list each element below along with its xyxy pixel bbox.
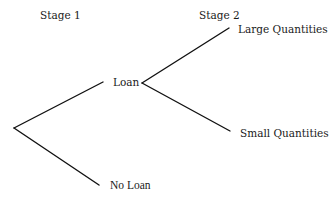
stage-2-label: Stage 2: [199, 10, 240, 21]
stage-1-label: Stage 1: [40, 10, 81, 21]
edge-loan-to-small-quantities: [142, 83, 230, 131]
node-large-quantities-label: Large Quantities: [238, 24, 328, 35]
node-small-quantities-label: Small Quantities: [240, 128, 329, 139]
edge-root-to-loan: [14, 82, 103, 128]
node-no-loan-label: No Loan: [110, 180, 151, 192]
node-loan-label: Loan: [113, 77, 139, 88]
edge-loan-to-large-quantities: [142, 28, 229, 83]
edge-root-to-no-loan: [14, 128, 99, 185]
